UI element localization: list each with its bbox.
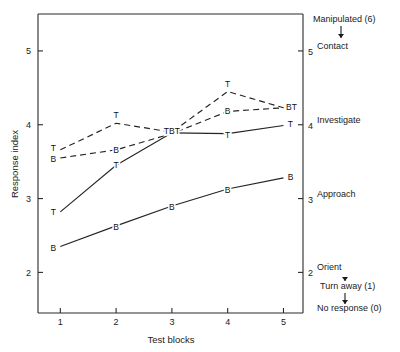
y-tick-label: 5: [26, 46, 31, 56]
point-marker-B: B: [225, 185, 231, 195]
data-point-markers: TTTTTTBBBBBBTTTTTTTTBBBBBBBBBBTBTTBTBTBT: [50, 79, 296, 253]
point-marker-cluster-block3: TBT: [164, 126, 180, 136]
x-tick-label: 5: [281, 317, 286, 327]
x-tick-label: 3: [169, 317, 174, 327]
point-marker-B: B: [50, 154, 56, 164]
y-axis-title: Response index: [9, 130, 20, 198]
point-marker-T: T: [225, 130, 230, 140]
annotation-manipulated: Manipulated (6): [313, 14, 376, 24]
x-tick-label: 4: [225, 317, 230, 327]
point-marker-B: B: [113, 222, 119, 232]
right-y-tick-label: 2: [308, 268, 313, 278]
point-marker-B: B: [288, 172, 294, 182]
y-tick-label: 4: [26, 120, 31, 130]
left-y-axis: 2345: [26, 46, 43, 277]
series-line-T-solid: [60, 125, 283, 211]
point-marker-T: T: [51, 143, 56, 153]
point-marker-B: B: [113, 145, 119, 155]
point-marker-B: B: [225, 106, 231, 116]
right-category-investigate: Investigate: [317, 115, 361, 125]
point-marker-T: T: [225, 79, 230, 89]
chart-figure: 2345 12345 2345 ContactInvestigateApproa…: [0, 0, 400, 352]
annotation-turn-away: Turn away (1): [320, 281, 375, 291]
right-category-labels: ContactInvestigateApproachOrient: [317, 41, 361, 272]
right-y-tick-label: 5: [308, 47, 313, 57]
right-category-orient: Orient: [317, 262, 342, 272]
right-y-tick-label: 4: [308, 121, 313, 131]
point-marker-B: B: [169, 202, 175, 212]
plot-frame: [38, 14, 303, 313]
right-y-tick-label: 3: [308, 195, 313, 205]
point-marker-T: T: [51, 207, 56, 217]
right-category-approach: Approach: [317, 189, 356, 199]
right-category-contact: Contact: [317, 41, 349, 51]
x-axis-title: Test blocks: [148, 334, 195, 345]
point-marker-T: T: [288, 119, 293, 129]
point-marker-cluster-block5: BT: [286, 102, 297, 112]
data-series-layer: [60, 92, 283, 247]
series-line-B-solid: [60, 178, 283, 247]
x-axis: 12345: [58, 308, 286, 327]
point-marker-B: B: [50, 243, 56, 253]
annotation-no-response: No response (0): [317, 303, 382, 313]
x-tick-label: 1: [58, 317, 63, 327]
response-index-line-chart: 2345 12345 2345 ContactInvestigateApproa…: [0, 0, 400, 352]
series-line-T-dashed: [60, 92, 283, 150]
y-tick-label: 3: [26, 194, 31, 204]
arrow-manipulated-to-contact-head: [338, 34, 344, 38]
point-marker-T: T: [114, 110, 119, 120]
x-tick-label: 2: [114, 317, 119, 327]
right-y-axis: 2345: [298, 47, 313, 278]
point-marker-T: T: [114, 160, 119, 170]
y-tick-label: 2: [26, 268, 31, 278]
